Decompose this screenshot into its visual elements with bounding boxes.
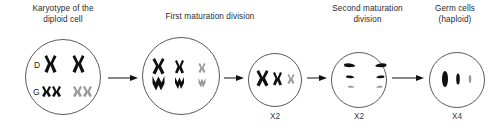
chromosome-c3-2-dark-medium xyxy=(273,72,282,86)
chromatid-right-small xyxy=(376,86,383,88)
chromosome-g4-gray-small xyxy=(83,86,92,97)
chromatid-right-large xyxy=(375,63,387,67)
chromatid-left-medium xyxy=(346,76,355,79)
chromosome-g3-gray-small xyxy=(73,86,82,97)
arrow-first-division-to-post-first xyxy=(224,75,244,81)
chromosome-d2-dark-large xyxy=(73,55,85,73)
arrow-diploid-to-first-division xyxy=(108,75,138,81)
chromosome-pair-2-dark-medium xyxy=(175,60,184,89)
arrow-second-division-to-germ xyxy=(392,75,424,81)
chromosome-pair-1-dark-large xyxy=(153,58,165,91)
chromosome-c3-1-dark-large xyxy=(257,70,269,87)
chromosome-c3-3-gray-small xyxy=(288,74,295,84)
diagram-graphics-layer xyxy=(0,0,501,131)
chromatid-right-medium xyxy=(376,76,385,79)
chromosome-pair-3-gray-small xyxy=(199,63,206,88)
arrow-post-first-to-second-division xyxy=(307,75,327,81)
chromosome-d1-dark-large xyxy=(45,55,57,73)
chromosome-g2-dark-small xyxy=(52,86,61,97)
rod-large-dark xyxy=(442,71,448,87)
chromosome-g1-dark-small xyxy=(42,86,51,97)
rod-small-gray xyxy=(469,75,472,83)
chromatid-left-large xyxy=(344,63,356,67)
meiosis-diagram: Karyotype of the diploid cell First matu… xyxy=(0,0,501,131)
chromatid-left-small xyxy=(348,86,355,88)
rod-medium-dark xyxy=(456,74,460,85)
